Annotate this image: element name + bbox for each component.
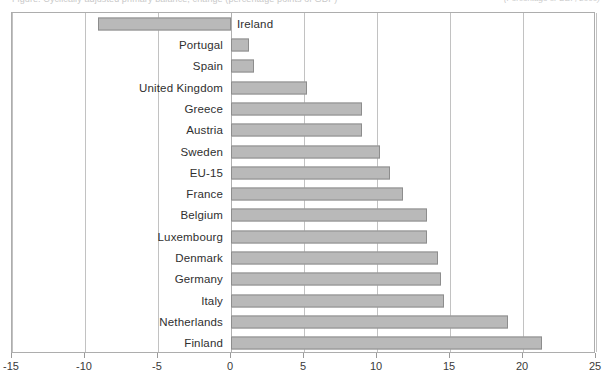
bar-sweden <box>231 145 380 158</box>
x-tick-10 <box>376 353 377 358</box>
x-tick-label-15: 15 <box>443 360 455 372</box>
bar-italy <box>231 294 444 307</box>
category-label-netherlands: Netherlands <box>159 316 223 328</box>
bar-austria <box>231 124 362 137</box>
bar-row: Portugal <box>12 34 594 56</box>
category-label-austria: Austria <box>186 124 223 136</box>
category-label-italy: Italy <box>201 295 223 307</box>
x-tick-15 <box>449 353 450 358</box>
bar-row: United Kingdom <box>12 77 594 99</box>
x-tick--10 <box>84 353 85 358</box>
x-tick--5 <box>157 353 158 358</box>
bar-chart-figure: Figure: Cyclically adjusted primary bala… <box>0 0 606 380</box>
category-label-germany: Germany <box>175 273 223 285</box>
bar-row: Spain <box>12 55 594 77</box>
bar-eu-15 <box>231 166 390 179</box>
bar-row: EU-15 <box>12 162 594 184</box>
bar-france <box>231 188 403 201</box>
chart-note-clipped: (Percentage of GDP, 2000) <box>504 0 600 3</box>
x-tick-label-25: 25 <box>589 360 601 372</box>
bar-netherlands <box>231 316 508 329</box>
bar-greece <box>231 102 362 115</box>
category-label-denmark: Denmark <box>175 252 223 264</box>
bar-luxembourg <box>231 230 427 243</box>
chart-title-clipped: Figure: Cyclically adjusted primary bala… <box>12 0 337 4</box>
bar-spain <box>231 60 254 73</box>
category-label-belgium: Belgium <box>180 209 223 221</box>
bar-row: Denmark <box>12 247 594 269</box>
x-tick-25 <box>595 353 596 358</box>
gridline-25 <box>596 13 597 352</box>
plot-area: IrelandPortugalSpainUnited KingdomGreece… <box>11 12 595 353</box>
x-tick-5 <box>303 353 304 358</box>
x-tick-label--5: -5 <box>152 360 162 372</box>
x-tick-label--15: -15 <box>3 360 19 372</box>
bar-row: Luxembourg <box>12 226 594 248</box>
category-label-united-kingdom: United Kingdom <box>139 82 223 94</box>
bar-germany <box>231 273 441 286</box>
category-label-portugal: Portugal <box>179 39 223 51</box>
bar-ireland <box>98 17 231 30</box>
bar-row: France <box>12 183 594 205</box>
x-tick-label-5: 5 <box>300 360 306 372</box>
category-label-spain: Spain <box>193 60 223 72</box>
bar-row: Austria <box>12 119 594 141</box>
bar-portugal <box>231 38 249 51</box>
bar-denmark <box>231 252 438 265</box>
category-label-ireland: Ireland <box>237 18 273 30</box>
x-tick--15 <box>11 353 12 358</box>
bar-row: Greece <box>12 98 594 120</box>
category-label-france: France <box>186 188 223 200</box>
category-label-sweden: Sweden <box>181 146 223 158</box>
category-label-greece: Greece <box>184 103 223 115</box>
bar-rows-group: IrelandPortugalSpainUnited KingdomGreece… <box>12 13 594 352</box>
x-tick-label-20: 20 <box>516 360 528 372</box>
clipped-header-strip: Figure: Cyclically adjusted primary bala… <box>0 0 606 11</box>
category-label-luxembourg: Luxembourg <box>158 231 223 243</box>
category-label-finland: Finland <box>184 337 223 349</box>
bar-belgium <box>231 209 427 222</box>
bar-united-kingdom <box>231 81 307 94</box>
x-tick-label-0: 0 <box>227 360 233 372</box>
bar-row: Italy <box>12 290 594 312</box>
x-tick-20 <box>522 353 523 358</box>
bar-row: Germany <box>12 268 594 290</box>
x-tick-label--10: -10 <box>76 360 92 372</box>
bar-finland <box>231 337 542 350</box>
x-tick-0 <box>230 353 231 358</box>
bar-row: Belgium <box>12 204 594 226</box>
bar-row: Ireland <box>12 13 594 35</box>
bar-row: Sweden <box>12 141 594 163</box>
bar-row: Netherlands <box>12 311 594 333</box>
category-label-eu-15: EU-15 <box>190 167 223 179</box>
x-tick-label-10: 10 <box>370 360 382 372</box>
